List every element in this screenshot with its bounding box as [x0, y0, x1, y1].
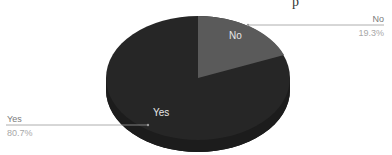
pie-chart — [0, 0, 392, 155]
callout-yes-percent: 80.7% — [7, 128, 33, 138]
slice-label-no: No — [229, 30, 242, 41]
callout-no-percent: 19.3% — [358, 28, 384, 38]
slice-label-yes: Yes — [153, 107, 169, 118]
callout-no-label: No — [372, 14, 384, 24]
callout-yes-label: Yes — [7, 114, 22, 124]
